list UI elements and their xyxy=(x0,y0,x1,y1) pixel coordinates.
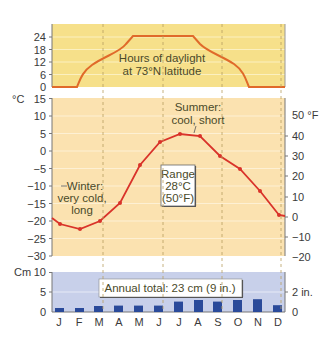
month-label: S xyxy=(214,316,221,328)
month-label: J xyxy=(176,316,182,328)
bar-sep xyxy=(213,302,222,312)
svg-text:10: 10 xyxy=(34,110,46,122)
month-label: O xyxy=(234,316,243,328)
svg-text:20: 20 xyxy=(292,170,304,182)
inch-tick-label: 2 in. xyxy=(292,286,313,298)
svg-text:10: 10 xyxy=(292,191,304,203)
month-label: A xyxy=(115,316,123,328)
svg-text:0: 0 xyxy=(292,211,298,223)
range-label-line1: Range xyxy=(161,168,195,180)
climate-chart: 24 18 12 6 0 Hours of daylight at 73°N l… xyxy=(0,0,332,339)
svg-text:50 °F: 50 °F xyxy=(292,109,319,121)
svg-text:30: 30 xyxy=(292,150,304,162)
svg-text:−20: −20 xyxy=(27,215,46,227)
svg-text:15: 15 xyxy=(34,93,46,105)
summer-label-line1: Summer: xyxy=(175,101,222,113)
inch-zero-label: 0 xyxy=(292,306,298,318)
range-box: Range 28°C (50°F) xyxy=(161,165,196,207)
precipitation-panel: Cm 10 5 0 2 in. 0 xyxy=(14,266,313,318)
svg-text:−15: −15 xyxy=(27,198,46,210)
svg-text:−5: −5 xyxy=(33,163,46,175)
range-label-line3: (50°F) xyxy=(162,192,194,204)
bar-jul xyxy=(174,302,183,312)
daylight-y-ticks: 24 18 12 6 0 xyxy=(34,31,46,93)
month-label: A xyxy=(194,316,202,328)
daylight-panel: 24 18 12 6 0 Hours of daylight at 73°N l… xyxy=(34,24,285,93)
bar-oct xyxy=(233,300,242,312)
daylight-label-line1: Hours of daylight xyxy=(119,52,206,64)
fahrenheit-ticks: 50 °F 40 30 20 10 0 −10 −20 xyxy=(292,109,319,263)
svg-text:0: 0 xyxy=(40,145,46,157)
month-label: F xyxy=(76,316,83,328)
bar-mar xyxy=(94,306,103,312)
svg-text:5: 5 xyxy=(40,286,46,298)
winter-label-line1: Winter: xyxy=(67,180,103,192)
annual-total-box: Annual total: 23 cm (9 in.) xyxy=(99,279,243,298)
bar-jan xyxy=(55,308,64,312)
winter-label-line3: long xyxy=(71,204,93,216)
svg-text:−20: −20 xyxy=(292,251,311,263)
bar-may xyxy=(134,306,143,312)
svg-text:0: 0 xyxy=(40,81,46,93)
annual-total-label: Annual total: 23 cm (9 in.) xyxy=(104,282,235,294)
cm-unit-label: Cm xyxy=(14,266,31,278)
cm-ticks: 10 5 0 xyxy=(34,266,46,318)
bar-jun xyxy=(154,306,163,312)
svg-text:12: 12 xyxy=(34,56,46,68)
bar-apr xyxy=(114,306,123,312)
celsius-unit-label: °C xyxy=(12,93,24,105)
svg-text:6: 6 xyxy=(40,69,46,81)
daylight-label-line2: at 73°N latitude xyxy=(123,65,202,77)
svg-text:−10: −10 xyxy=(27,180,46,192)
summer-label-line2: cool, short xyxy=(171,114,225,126)
svg-text:5: 5 xyxy=(40,128,46,140)
svg-text:24: 24 xyxy=(34,31,46,43)
celsius-ticks: 15 10 5 0 −5 −10 −15 −20 −25 −30 xyxy=(27,93,46,262)
bar-feb xyxy=(75,308,84,312)
svg-text:−30: −30 xyxy=(27,250,46,262)
svg-text:18: 18 xyxy=(34,44,46,56)
month-label: J xyxy=(156,316,162,328)
svg-text:10: 10 xyxy=(34,266,46,278)
svg-text:0: 0 xyxy=(40,306,46,318)
bar-nov xyxy=(253,299,262,312)
svg-text:−25: −25 xyxy=(27,233,46,245)
bar-aug xyxy=(194,300,203,312)
month-label: D xyxy=(274,316,282,328)
month-label: N xyxy=(254,316,262,328)
winter-label-line2: very cold, xyxy=(57,192,106,204)
range-label-line2: 28°C xyxy=(165,180,191,192)
temperature-panel: °C 15 10 5 0 −5 −10 −15 −20 −25 −30 50 °… xyxy=(12,93,319,263)
month-label: M xyxy=(134,316,143,328)
month-label: J xyxy=(56,316,62,328)
svg-text:40: 40 xyxy=(292,130,304,142)
month-label: M xyxy=(94,316,103,328)
month-labels: J F M A M J J A S O N D xyxy=(56,316,282,328)
svg-text:−10: −10 xyxy=(292,231,311,243)
